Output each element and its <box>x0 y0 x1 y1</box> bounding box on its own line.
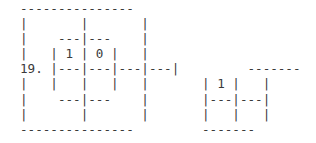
diagram-line-top-border: --------------- <box>20 1 301 16</box>
diagram-line-cell-values: | | 1 | 0 | | <box>20 46 301 61</box>
diagram-line-bottom-border: --------------- ------- <box>20 122 301 137</box>
diagram-line-inner-bottom: | ---|--- | |---|---| <box>20 92 301 107</box>
diagram-line-numbered-row: 19. |---|---|---|---| ------- <box>20 61 301 76</box>
diagram-line-right-grid-values: | | | | | | 1 | | <box>20 76 301 91</box>
ascii-diagram: ---------------| | || ---|--- || | 1 | 0… <box>20 1 301 137</box>
diagram-line: | | | | | | <box>20 107 301 122</box>
diagram-line-inner-top: | ---|--- | <box>20 31 301 46</box>
diagram-line: | | | <box>20 16 301 31</box>
